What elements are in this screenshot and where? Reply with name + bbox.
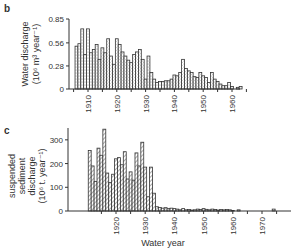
bar [123,152,126,211]
y-tick-label: 0 [60,85,65,94]
bar [182,59,185,89]
bar [144,79,147,89]
svg-text:suspended: suspended [7,154,17,198]
bar [141,142,144,211]
bar [103,129,106,211]
bar [135,153,138,211]
bar [205,77,208,89]
bar [117,158,120,211]
bar [87,29,90,89]
bar [132,180,135,211]
x-tick-label: 1940 [170,94,179,112]
y-tick-label: 300 [50,136,64,145]
bar [112,64,115,89]
bar [202,76,205,89]
x-tick-label: 1970 [258,216,267,234]
bar [107,39,110,89]
bar [121,52,124,89]
bar [124,56,127,89]
y-tick-label: 0 [59,207,64,216]
bar [153,79,156,89]
bar [167,81,170,89]
bar [164,81,167,89]
bar [129,172,132,211]
bar [81,29,84,89]
bar [216,82,219,89]
y-tick-label: 0.85 [48,15,64,24]
bar [130,63,133,89]
svg-text:(10⁶ m³ year⁻¹): (10⁶ m³ year⁻¹) [31,24,41,85]
bar [115,39,118,89]
panel-b-ylabel: Water discharge (10⁶ m³ year⁻¹) [20,21,41,86]
bar [98,59,101,89]
bar [187,71,190,89]
bar [147,56,150,89]
bar [208,82,211,89]
bar [95,45,98,89]
x-tick-label: 1910 [84,94,93,112]
bar [193,77,196,89]
bar [184,68,187,89]
bar [115,159,118,211]
bar [75,46,78,89]
svg-text:Water discharge: Water discharge [20,21,30,86]
bar [100,155,103,211]
x-tick-label: 1940 [170,216,179,234]
bar [176,76,179,89]
bar [147,197,150,211]
bar [84,54,87,89]
bar [127,60,130,89]
bar [144,167,147,211]
y-tick-label: 0.56 [48,39,64,48]
bar [88,151,91,211]
bar [179,73,182,89]
panel-c-label: c [4,125,10,136]
bar [133,54,136,89]
bar [196,77,199,89]
bar [161,82,164,89]
x-axis-title: Water year [141,238,185,248]
bar [210,73,213,89]
bar [158,207,161,211]
bar [138,166,141,211]
x-tick-label: 1920 [112,216,121,234]
bar [150,167,153,211]
bar [126,179,129,211]
bar [110,56,113,89]
x-tick-label: 1960 [229,216,238,234]
bar [155,207,158,211]
bar [159,82,162,89]
y-tick-label: 0.28 [48,62,64,71]
bar [118,45,121,89]
x-tick-label: 1930 [141,216,150,234]
panel-c-sediment-discharge: 0100200300192019301940195019601970 [50,128,291,235]
y-tick-label: 200 [50,160,64,169]
x-tick-label: 1950 [200,216,209,234]
bar [112,174,115,211]
panel-c-ylabel: suspended sediment discharge (10⁶ t. yea… [7,148,47,203]
bar [138,49,141,89]
x-tick-label: 1960 [228,94,237,112]
svg-text:discharge: discharge [27,156,37,195]
bar [228,82,231,89]
bar [153,193,156,211]
bar [219,84,222,89]
bar [190,73,193,89]
bar [150,73,153,89]
x-tick-label: 1930 [142,94,151,112]
bar [104,53,107,89]
bar [199,73,202,89]
bar [97,148,100,211]
y-tick-label: 100 [50,183,64,192]
bar [136,52,139,89]
bar [106,173,109,211]
bar [94,181,97,211]
x-tick-label: 1920 [113,94,122,112]
bar [91,166,94,211]
svg-text:sediment: sediment [17,157,27,194]
bar [173,75,176,89]
svg-text:(10⁶ t. year⁻¹): (10⁶ t. year⁻¹) [37,148,47,203]
bar [101,48,104,89]
bar [89,53,92,89]
bar [141,59,144,89]
